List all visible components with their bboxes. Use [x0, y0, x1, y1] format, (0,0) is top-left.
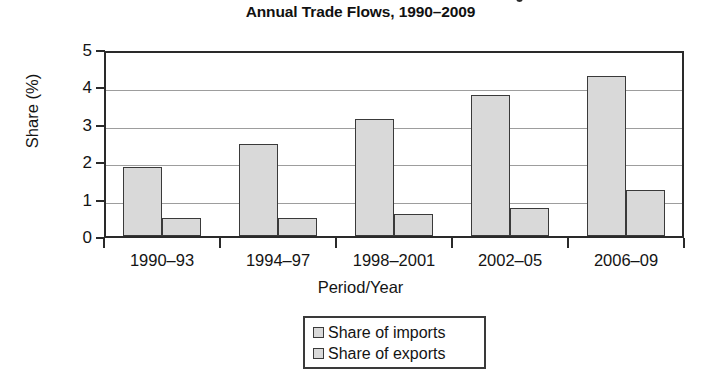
x-axis-tick-mark	[567, 238, 569, 248]
x-axis-tick-mark	[335, 238, 337, 248]
chart-legend: Share of imports Share of exports	[303, 316, 486, 369]
plot-area	[104, 51, 684, 238]
bar-exports	[162, 218, 201, 236]
bar-exports	[510, 208, 549, 236]
y-axis-tick-label: 0	[60, 229, 92, 246]
bar-imports	[239, 144, 278, 236]
x-axis-tick-mark	[103, 238, 105, 248]
x-axis-tick-mark	[683, 238, 685, 248]
x-axis-tick-label: 1990–93	[104, 251, 220, 270]
bar-imports	[123, 167, 162, 236]
bar-imports	[471, 95, 510, 236]
x-axis-tick-label: 1998–2001	[336, 251, 452, 270]
x-axis-tick-mark	[219, 238, 221, 248]
bar-exports	[394, 214, 433, 236]
x-axis-title: Period/Year	[0, 278, 721, 297]
bars-layer	[106, 53, 682, 236]
legend-swatch-exports	[313, 348, 324, 359]
x-axis-tick-mark	[451, 238, 453, 248]
y-axis-tick-label: 1	[60, 192, 92, 209]
legend-item-imports: Share of imports	[313, 322, 484, 343]
y-axis-tick-label: 3	[60, 117, 92, 134]
y-axis-tick-label: 5	[60, 42, 92, 59]
x-axis-tick-label: 1994–97	[220, 251, 336, 270]
y-axis-tick-label: 2	[60, 154, 92, 171]
legend-item-exports: Share of exports	[313, 343, 484, 364]
x-axis-tick-label: 2002–05	[452, 251, 568, 270]
bar-imports	[587, 76, 626, 236]
y-axis-tick-label: 4	[60, 79, 92, 96]
legend-label-imports: Share of imports	[328, 324, 445, 342]
bar-imports	[355, 119, 394, 236]
legend-label-exports: Share of exports	[328, 345, 445, 363]
x-axis-tick-label: 2006–09	[568, 251, 684, 270]
bar-exports	[626, 190, 665, 236]
legend-swatch-imports	[313, 327, 324, 338]
bar-exports	[278, 218, 317, 236]
